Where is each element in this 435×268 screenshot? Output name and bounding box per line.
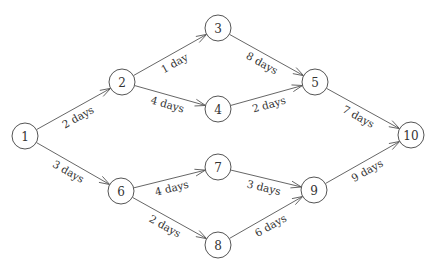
edge-duration-label: 1 day [159, 50, 190, 75]
node-label: 4 [214, 103, 222, 117]
edge-2-3: 1 day [133, 34, 206, 75]
node-3: 3 [205, 15, 231, 41]
node-9: 9 [301, 177, 327, 203]
edge-9-10: 9 days [325, 141, 399, 184]
edge-duration-label: 4 days [149, 94, 185, 115]
arrowhead-icon [194, 105, 205, 106]
edge-duration-label: 4 days [154, 178, 190, 198]
edge-2-4: 4 days [135, 86, 206, 115]
arrowhead-icon [194, 169, 205, 170]
node-5: 5 [302, 69, 328, 95]
edge-4-5: 2 days [231, 85, 303, 115]
edge-duration-label: 2 days [60, 103, 96, 130]
node-label: 8 [214, 239, 222, 253]
diagram-svg: 2 days3 days1 day4 days8 days2 days7 day… [0, 0, 435, 268]
node-label: 9 [310, 184, 318, 198]
node-8: 8 [205, 232, 231, 258]
edge-6-7: 4 days [134, 169, 206, 197]
node-label: 3 [214, 22, 222, 36]
node-label: 7 [214, 161, 222, 175]
edge-8-9: 6 days [229, 196, 302, 239]
edge-duration-label: 6 days [253, 212, 289, 239]
arrowhead-icon [291, 85, 302, 86]
edge-duration-label: 2 days [251, 94, 287, 115]
node-label: 10 [403, 129, 418, 143]
edge-1-2: 2 days [36, 88, 110, 130]
nodes-layer: 12345678910 [12, 15, 424, 258]
node-2: 2 [109, 69, 135, 95]
node-1: 1 [12, 123, 38, 149]
edges-layer: 2 days3 days1 day4 days8 days2 days7 day… [36, 34, 399, 239]
node-7: 7 [205, 154, 231, 180]
edge-5-10: 7 days [326, 88, 399, 130]
edge-6-8: 2 days [132, 197, 206, 239]
edge-7-9: 3 days [231, 170, 302, 197]
edge-duration-label: 8 days [244, 49, 280, 76]
edge-duration-label: 2 days [147, 212, 183, 239]
network-diagram: 2 days3 days1 day4 days8 days2 days7 day… [0, 0, 435, 268]
edge-3-5: 8 days [229, 34, 303, 76]
node-label: 2 [118, 76, 126, 90]
arrowhead-icon [290, 187, 301, 188]
node-label: 6 [117, 185, 125, 199]
node-6: 6 [108, 178, 134, 204]
edge-duration-label: 7 days [341, 103, 377, 130]
node-label: 1 [21, 130, 29, 144]
edge-duration-label: 9 days [349, 157, 385, 184]
edge-duration-label: 3 days [246, 177, 282, 197]
node-10: 10 [398, 122, 424, 148]
edge-1-6: 3 days [36, 142, 109, 185]
node-label: 5 [311, 76, 319, 90]
node-4: 4 [205, 96, 231, 122]
edge-duration-label: 3 days [51, 158, 87, 185]
